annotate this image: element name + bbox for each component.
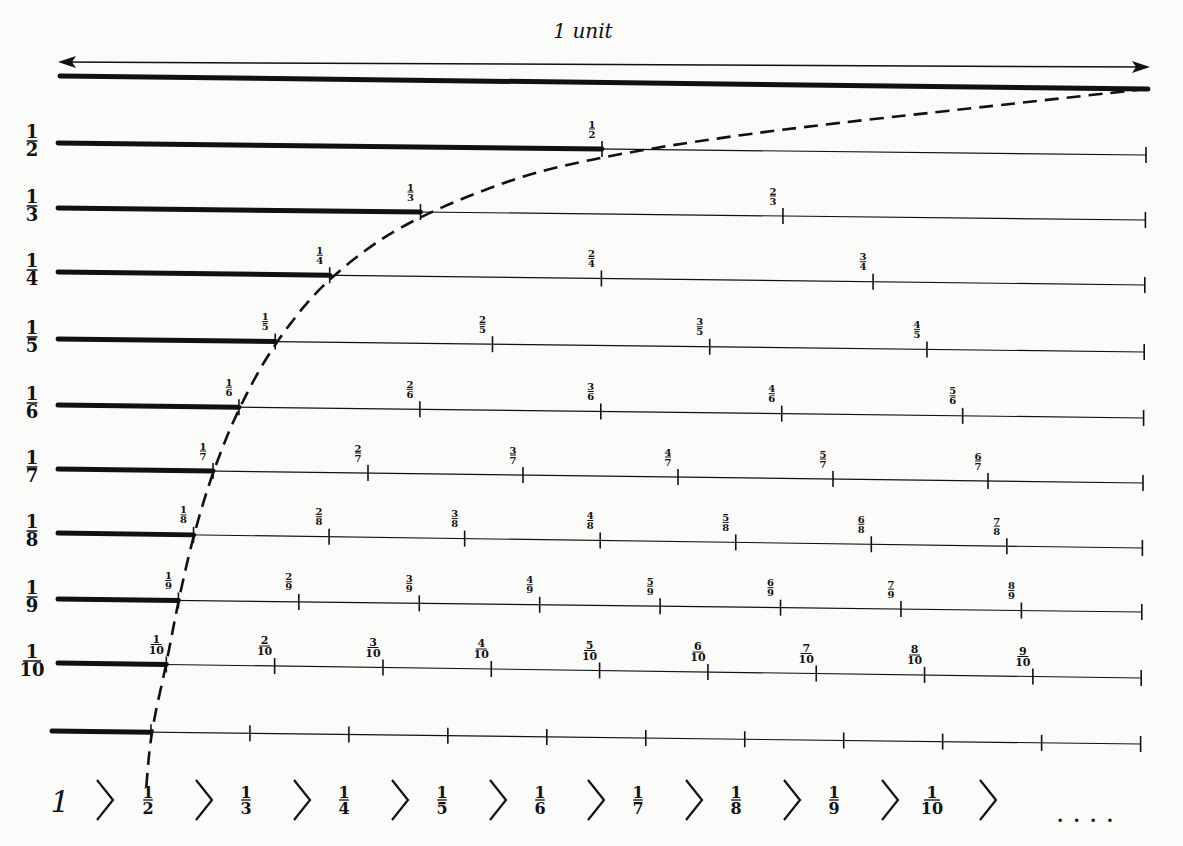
fraction-row — [52, 724, 1141, 752]
svg-text:4: 4 — [338, 799, 349, 818]
svg-text:5: 5 — [479, 324, 486, 335]
sequence-fraction: 19 — [828, 783, 839, 818]
tick-label: 59 — [647, 576, 654, 597]
svg-text:2: 2 — [589, 129, 596, 140]
svg-text:3: 3 — [240, 799, 251, 818]
row-label: 19 — [26, 577, 39, 616]
tick-label: 28 — [316, 506, 323, 527]
svg-text:8: 8 — [858, 524, 865, 535]
greater-than-icon — [392, 780, 408, 820]
fraction-row: 1212 — [26, 119, 1146, 164]
row-label: 17 — [26, 447, 39, 486]
tick-label: 49 — [526, 574, 533, 595]
row-label: 14 — [26, 250, 39, 289]
svg-text:10: 10 — [799, 653, 815, 666]
unit-fraction-bar — [58, 663, 166, 665]
svg-text:9: 9 — [406, 583, 413, 594]
tick-label: 39 — [406, 573, 413, 594]
row-label: 12 — [26, 121, 39, 160]
whole-unit-bar — [60, 76, 1148, 89]
greater-than-icon — [294, 780, 310, 820]
dashed-curve — [146, 89, 1146, 790]
fraction-row: 1828384858687818 — [26, 504, 1143, 556]
tick-label: 48 — [587, 510, 594, 531]
svg-text:10: 10 — [907, 654, 923, 667]
tick-label: 19 — [165, 570, 172, 591]
svg-text:9: 9 — [26, 595, 39, 616]
sequence-fraction: 12 — [142, 783, 153, 818]
unit-fraction-bar — [58, 208, 420, 212]
greater-than-icon — [882, 780, 898, 820]
tick-label: 29 — [285, 571, 292, 592]
svg-text:6: 6 — [26, 401, 39, 422]
tick-label: 46 — [768, 383, 775, 404]
svg-text:9: 9 — [767, 587, 774, 598]
greater-than-icon — [490, 780, 506, 820]
tick-label: 36 — [587, 381, 594, 402]
tick-label: 15 — [262, 311, 269, 332]
fraction-row: 110210310410510610710810910110 — [19, 633, 1141, 686]
unit-fraction-bar — [58, 469, 213, 471]
svg-text:8: 8 — [316, 516, 323, 527]
svg-text:8: 8 — [26, 529, 39, 550]
svg-text:5: 5 — [26, 335, 39, 356]
fraction-row: 14243414 — [26, 245, 1145, 293]
tick-label: 79 — [887, 579, 894, 600]
fraction-sequence: 11213141516171819110. . . . — [50, 780, 1113, 828]
svg-text:10: 10 — [365, 647, 381, 660]
tick-label: 910 — [1015, 645, 1031, 669]
fraction-row: 1525354515 — [26, 311, 1144, 360]
svg-text:6: 6 — [534, 799, 545, 818]
tick-label: 57 — [820, 449, 827, 470]
unit-fractions-diagram: 1 unit 121213231314243414152535451516263… — [0, 0, 1183, 846]
tick-label: 410 — [474, 637, 490, 661]
svg-text:5: 5 — [913, 329, 920, 340]
tick-label: 310 — [365, 636, 381, 660]
svg-text:10: 10 — [690, 651, 706, 664]
tick-label: 12 — [589, 119, 596, 140]
svg-text:7: 7 — [820, 459, 827, 470]
tick-label: 16 — [225, 377, 232, 398]
svg-text:10: 10 — [474, 648, 490, 661]
tick-label: 67 — [975, 451, 982, 472]
svg-text:10: 10 — [257, 645, 273, 658]
tick-label: 510 — [582, 639, 598, 663]
ellipsis: . . . . — [1056, 798, 1114, 828]
svg-text:7: 7 — [510, 455, 517, 466]
sequence-fraction: 110 — [921, 783, 943, 818]
unit-fraction-bar — [58, 143, 602, 149]
tick-label: 45 — [913, 319, 920, 340]
greater-than-icon — [196, 780, 212, 820]
row-label: 15 — [26, 317, 39, 356]
svg-text:9: 9 — [526, 584, 533, 595]
svg-text:10: 10 — [1015, 656, 1031, 669]
row-label: 16 — [26, 383, 39, 422]
svg-text:6: 6 — [949, 395, 956, 406]
svg-text:6: 6 — [587, 391, 594, 402]
svg-text:9: 9 — [887, 589, 894, 600]
svg-text:8: 8 — [730, 799, 741, 818]
svg-text:9: 9 — [1008, 590, 1015, 601]
svg-text:10: 10 — [582, 650, 598, 663]
tick-label: 810 — [907, 643, 923, 667]
svg-text:8: 8 — [587, 520, 594, 531]
tick-label: 58 — [722, 512, 729, 533]
fraction-row: 192939495969798919 — [26, 570, 1142, 620]
tick-label: 34 — [860, 251, 867, 272]
svg-text:10: 10 — [921, 799, 943, 818]
greater-than-icon — [97, 780, 113, 820]
unit-fraction-bar — [58, 405, 239, 407]
svg-text:7: 7 — [355, 453, 362, 464]
svg-text:9: 9 — [285, 581, 292, 592]
unit-title: 1 unit — [553, 19, 613, 43]
svg-text:9: 9 — [647, 586, 654, 597]
svg-text:8: 8 — [722, 522, 729, 533]
tick-label: 37 — [510, 445, 517, 466]
svg-text:3: 3 — [769, 196, 776, 207]
svg-text:4: 4 — [316, 255, 323, 266]
svg-text:4: 4 — [26, 268, 39, 289]
tick-label: 47 — [665, 447, 672, 468]
tick-label: 27 — [355, 443, 362, 464]
svg-text:7: 7 — [26, 465, 39, 486]
tick-label: 23 — [769, 186, 776, 207]
